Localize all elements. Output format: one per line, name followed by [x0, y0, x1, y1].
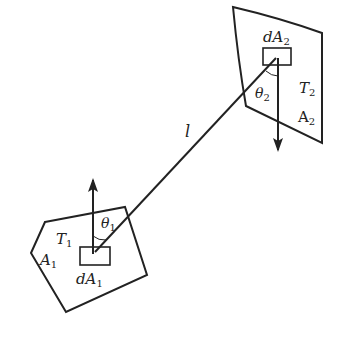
label-distance: l — [185, 122, 190, 141]
label-theta2: θ2 — [255, 85, 270, 103]
label-a2: A2 — [297, 108, 315, 127]
label-a1: A1 — [38, 251, 57, 270]
label-da1: dA1 — [76, 270, 103, 289]
angle-arc-theta1 — [93, 236, 106, 240]
label-t1: T1 — [56, 230, 72, 249]
diagram-svg: T1 A1 dA1 θ1 dA2 θ2 T2 A2 l — [0, 0, 350, 341]
distance-line — [95, 58, 276, 252]
element-da1 — [80, 247, 110, 265]
diagram-canvas: T1 A1 dA1 θ1 dA2 θ2 T2 A2 l — [0, 0, 350, 341]
label-t2: T2 — [299, 79, 315, 98]
label-theta1: θ1 — [101, 215, 116, 233]
angle-arc-theta2 — [266, 71, 278, 76]
label-da2: dA2 — [263, 28, 290, 47]
